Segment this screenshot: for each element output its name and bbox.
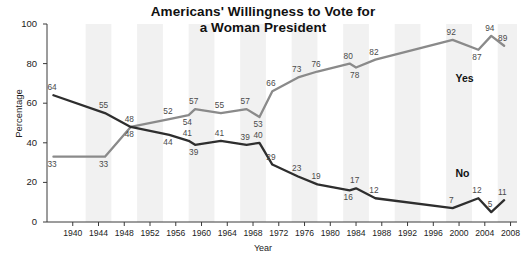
data-label-yes-1975: 73	[292, 64, 301, 74]
y-axis-tick-60: 60	[11, 97, 37, 108]
data-label-yes-1967: 57	[241, 96, 250, 106]
data-label-yes-1955: 52	[163, 106, 172, 116]
data-label-no-1963: 41	[215, 128, 224, 138]
y-axis-tick-20: 20	[11, 176, 37, 187]
data-label-no-1987: 12	[369, 185, 378, 195]
chart-figure: Americans' Willingness to Vote for a Wom…	[0, 0, 526, 262]
data-label-yes-2007: 89	[498, 33, 507, 43]
y-axis-tick-100: 100	[11, 18, 37, 29]
data-label-no-1969: 40	[253, 130, 262, 140]
data-label-yes-1949: 48	[125, 129, 134, 139]
y-axis-tick-80: 80	[11, 58, 37, 69]
series-tag-no: No	[455, 167, 469, 179]
data-label-no-1967: 39	[241, 132, 250, 142]
data-label-no-1959: 39	[189, 147, 198, 157]
data-label-no-1937: 64	[47, 82, 56, 92]
data-label-no-1949: 48	[125, 114, 134, 124]
data-label-no-1984: 17	[350, 175, 359, 185]
x-axis-tick-2008: 2008	[494, 228, 526, 238]
data-label-yes-1963: 55	[215, 100, 224, 110]
data-label-yes-1969: 53	[253, 119, 262, 129]
series-line-no	[53, 95, 504, 212]
data-label-no-1955: 44	[163, 137, 172, 147]
data-label-no-2005: 5	[488, 199, 493, 209]
data-label-yes-1945: 33	[99, 159, 108, 169]
data-label-yes-1959: 57	[189, 96, 198, 106]
data-label-yes-2003: 87	[472, 52, 481, 62]
series-line-yes	[53, 36, 504, 157]
data-label-no-1978: 19	[311, 171, 320, 181]
data-label-yes-1984: 78	[350, 70, 359, 80]
data-label-no-1945: 55	[99, 100, 108, 110]
data-label-yes-1937: 33	[47, 159, 56, 169]
chart-plot-area	[0, 0, 526, 262]
data-label-no-2007: 11	[498, 187, 507, 197]
series-tag-yes: Yes	[455, 72, 473, 84]
data-label-yes-1999: 92	[447, 27, 456, 37]
data-label-no-1971: 29	[266, 152, 275, 162]
y-axis-tick-0: 0	[11, 216, 37, 227]
data-label-no-1983: 16	[344, 192, 353, 202]
data-label-yes-1978: 76	[311, 59, 320, 69]
data-label-yes-2005: 94	[485, 23, 494, 33]
data-label-yes-1987: 82	[369, 47, 378, 57]
data-label-yes-1958: 54	[183, 117, 192, 127]
data-label-yes-1983: 80	[344, 51, 353, 61]
data-label-no-1999: 7	[449, 195, 454, 205]
x-axis-label: Year	[0, 243, 526, 253]
data-label-yes-1971: 66	[266, 78, 275, 88]
data-label-no-2003: 12	[472, 185, 481, 195]
data-label-no-1975: 23	[292, 163, 301, 173]
y-axis-tick-40: 40	[11, 137, 37, 148]
data-label-no-1958: 41	[183, 128, 192, 138]
